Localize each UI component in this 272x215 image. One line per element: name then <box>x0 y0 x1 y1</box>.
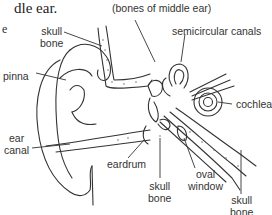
semicircular-canals-label: semicircular canals <box>172 25 261 37</box>
oval-window-label: oval window <box>188 168 223 192</box>
leader-ossicles <box>135 20 155 62</box>
pinna-label: pinna <box>3 70 29 82</box>
semicircular-canals <box>169 64 188 88</box>
skull-bone-mid-line1: skull <box>148 180 171 192</box>
cochlea <box>194 88 222 116</box>
oval-window-line2: window <box>188 180 223 192</box>
skull-bone-top-line1: skull <box>40 25 63 37</box>
ear-canal-label: ear canal <box>4 132 29 156</box>
skull-bone-right-line1: skull <box>230 194 253 206</box>
skull-bone-right-label: skull bone <box>230 194 253 215</box>
leader-ear-canal <box>32 144 70 148</box>
skull-bone-top-line2: bone <box>40 37 63 49</box>
skull-bone-right-line2: bone <box>230 206 253 215</box>
leader-cochlea <box>218 102 232 104</box>
ear-canal-line1: ear <box>4 132 29 144</box>
leader-semicircular-canals <box>181 34 185 62</box>
oval-window-line1: oval <box>188 168 223 180</box>
ear-canal <box>46 130 150 146</box>
eardrum-label: eardrum <box>107 158 146 170</box>
ear-canal-line2: canal <box>4 144 29 156</box>
skull-bone-mid-line2: bone <box>148 192 171 204</box>
cochlea-label: cochlea <box>236 98 272 110</box>
skull-bone-top-label: skull bone <box>40 25 63 49</box>
pinna-outline <box>37 60 92 196</box>
ossicles-label: (bones of middle ear) <box>112 2 211 14</box>
skull-bone-mid-label: skull bone <box>148 180 171 204</box>
